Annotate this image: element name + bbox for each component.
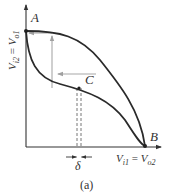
delta-label: δ <box>75 159 81 173</box>
y-axis-label: Vi2 = Vo1 <box>6 31 21 70</box>
point-c <box>77 86 80 89</box>
delta-dashed-lines <box>77 88 81 147</box>
label-b: B <box>150 129 158 144</box>
transfer-curve-2 <box>26 31 145 146</box>
transfer-curve-1 <box>26 31 145 146</box>
point-a <box>24 29 28 33</box>
label-c: C <box>85 72 94 87</box>
figure-caption: (a) <box>80 178 93 192</box>
butterfly-curve-diagram: A B C Vi2 = Vo1 Vi1 = Vo2 δ (a) <box>0 0 170 196</box>
x-axis-label: Vi1 = Vo2 <box>116 152 155 167</box>
label-a: A <box>30 10 39 25</box>
point-b <box>143 144 147 148</box>
